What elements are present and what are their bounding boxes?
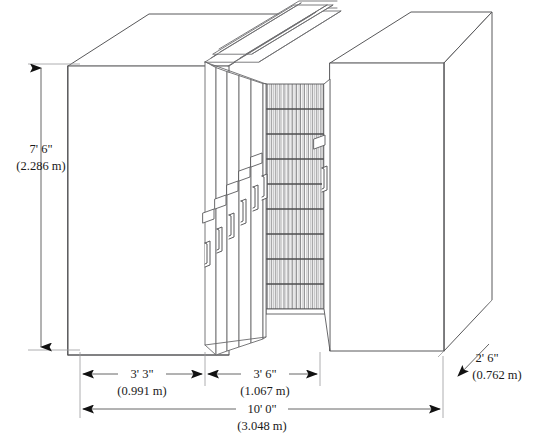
right-bay-width-imperial-fg: 3' 6" (254, 367, 277, 381)
overall-height-metric: (2.286 m) (16, 159, 65, 173)
right-cabinet-block (330, 12, 492, 351)
isometric-shelving-drawing: 7' 6" (2.286 m) 3' 3" (0.991 m) 3' 6" (1… (0, 0, 558, 443)
left-bay-width-imperial-fg: 3' 3" (131, 367, 154, 381)
overall-width-imperial-fg: 10' 0" (247, 402, 276, 416)
left-bay-width-metric: (0.991 m) (117, 384, 166, 398)
right-bay-width-metric: (1.067 m) (240, 384, 289, 398)
overall-width-metric: (3.048 m) (237, 419, 286, 433)
overall-depth-metric: (0.762 m) (472, 368, 521, 382)
overall-depth-imperial: 2' 6" (476, 351, 499, 365)
drawing-canvas: 7' 6" (2.286 m) 3' 3" (0.991 m) 3' 6" (1… (0, 0, 558, 443)
open-aisle-shelving (266, 79, 330, 351)
overall-height-imperial: 7' 6" (30, 142, 53, 156)
